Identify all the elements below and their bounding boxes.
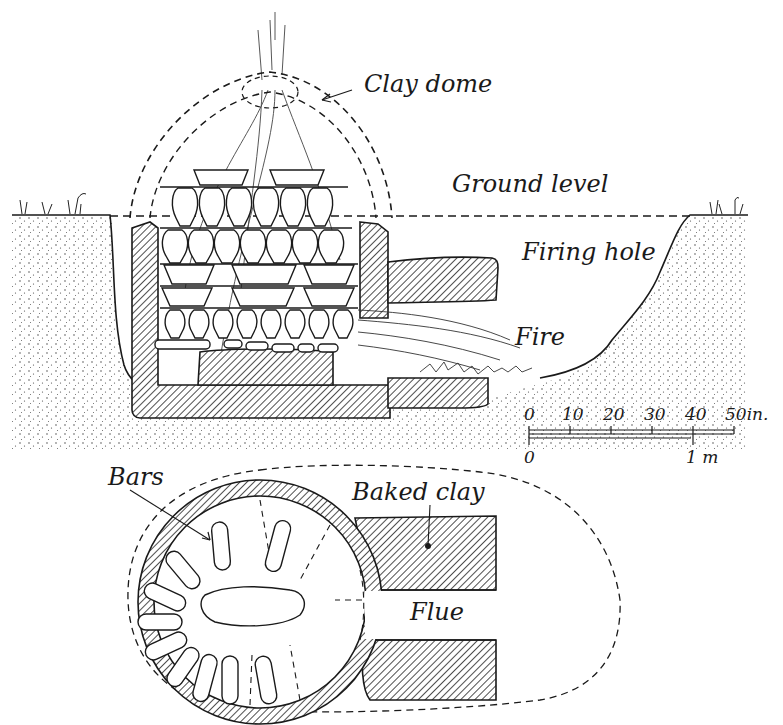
fire-icon [358,310,532,374]
kiln-right-wall [360,222,388,318]
label-clay-dome: Clay dome [364,72,492,96]
center-support [198,349,333,385]
pottery-stack [155,170,358,352]
scale-tick-20: 20 [603,406,625,423]
label-baked-clay: Baked clay [352,480,485,504]
label-fire: Fire [515,325,565,349]
scale-tick-50in: 50in. [725,406,768,423]
scale-metric-0: 0 [524,449,535,466]
firing-hole-bottom [388,378,488,408]
kiln-diagram [0,0,783,725]
scale-tick-40: 40 [685,406,707,423]
label-bars: Bars [108,465,164,489]
flue-block-bottom [362,640,496,700]
label-firing-hole: Firing hole [522,240,656,264]
scale-tick-30: 30 [644,406,666,423]
grass-icon [20,194,743,215]
scale-metric-1m: 1 m [686,449,718,466]
scale-tick-10: 10 [562,406,584,423]
label-ground-level: Ground level [452,172,608,196]
scale-tick-0: 0 [524,406,535,423]
firing-hole-top [388,257,498,303]
label-flue: Flue [410,600,464,624]
